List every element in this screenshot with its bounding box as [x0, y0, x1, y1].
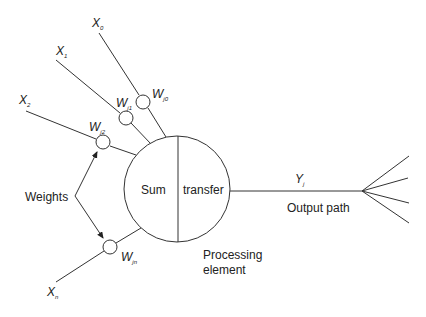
weight-node-j1 — [119, 111, 133, 125]
sum-label: Sum — [141, 183, 166, 197]
weight-node-jn — [103, 240, 117, 254]
input-label-xn: Xn — [46, 285, 59, 300]
processing-element-caption-2: element — [203, 263, 246, 277]
weights-arrow-down — [75, 196, 103, 238]
output-path-caption: Output path — [287, 201, 350, 215]
weight-label-wjn: Wjn — [121, 250, 138, 265]
weights-label: Weights — [25, 190, 68, 204]
weight-label-wj1: Wj1 — [116, 96, 132, 111]
output-path: Yj Output path — [230, 156, 409, 223]
output-label-yj: Yj — [295, 172, 305, 187]
fanout-4 — [362, 191, 409, 223]
transfer-label: transfer — [183, 183, 224, 197]
fanout-1 — [362, 156, 409, 191]
weight-node-j0 — [136, 95, 150, 109]
input-label-x2: X2 — [18, 93, 31, 108]
processing-element-caption-1: Processing — [203, 248, 262, 262]
weights-arrow-up — [75, 152, 97, 196]
processing-element: Sum transfer Processing element — [124, 136, 262, 277]
weight-node-j2 — [96, 135, 110, 149]
fanout-3 — [362, 191, 409, 203]
weight-label-wj0: Wj0 — [152, 87, 169, 102]
input-xn: Xn Wjn — [46, 228, 141, 300]
fanout-2 — [362, 178, 408, 191]
weights-annotation: Weights — [25, 152, 103, 238]
weight-label-wj2: Wj2 — [89, 120, 106, 135]
input-label-x0: X0 — [91, 16, 104, 31]
input-label-x1: X1 — [55, 44, 67, 59]
neuron-diagram: X0 Wj0 X1 Wj1 X2 Wj2 Xn Wjn Weights Sum … — [0, 0, 426, 317]
